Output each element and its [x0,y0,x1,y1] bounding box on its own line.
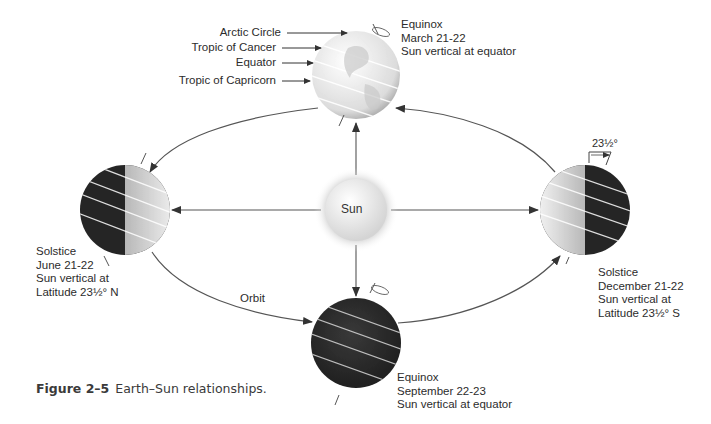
label-tropic-of-cancer: Tropic of Cancer [191,41,276,55]
figure-caption: Figure 2–5Earth–Sun relationships. [36,381,267,396]
june-date: June 21-22 [36,259,119,273]
september-desc: Sun vertical at equator [397,398,512,412]
label-june-solstice: Solstice June 21-22 Sun vertical at Lati… [36,245,119,299]
label-march-equinox: Equinox March 21-22 Sun vertical at equa… [401,18,516,59]
december-desc: Sun vertical at [598,293,684,307]
figure-caption-text: Earth–Sun relationships. [115,381,266,396]
orbit-label: Orbit [240,292,265,306]
december-title: Solstice [598,266,684,280]
june-latitude: Latitude 23½° N [36,286,119,300]
label-equator: Equator [236,56,276,70]
june-desc: Sun vertical at [36,272,119,286]
label-arctic-circle: Arctic Circle [220,26,281,40]
december-date: December 21-22 [598,280,684,294]
march-title: Equinox [401,18,516,32]
march-date: March 21-22 [401,32,516,46]
december-latitude: Latitude 23½° S [598,307,684,321]
figure-number: Figure 2–5 [36,381,109,396]
sun-label: Sun [341,202,362,216]
march-desc: Sun vertical at equator [401,45,516,59]
label-tropic-of-capricorn: Tropic of Capricorn [179,74,276,88]
september-title: Equinox [397,371,512,385]
label-september-equinox: Equinox September 22-23 Sun vertical at … [397,371,512,412]
june-title: Solstice [36,245,119,259]
september-date: September 22-23 [397,385,512,399]
tilt-angle-label: 23½° [592,137,618,151]
label-december-solstice: Solstice December 21-22 Sun vertical at … [598,266,684,320]
